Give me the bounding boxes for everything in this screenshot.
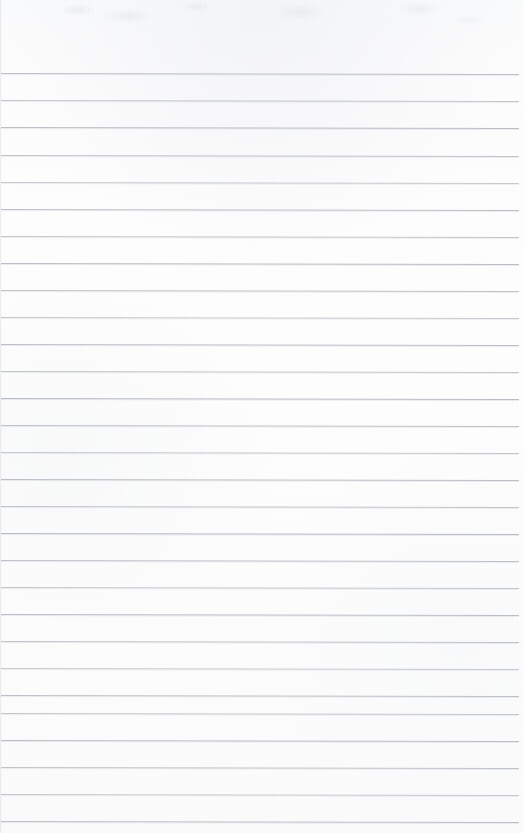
rule-line (1, 533, 519, 535)
rule-line (1, 182, 519, 184)
rule-line (1, 506, 519, 508)
rule-line (1, 371, 519, 373)
rule-line (1, 695, 519, 697)
rule-line (1, 452, 519, 454)
rule-line (1, 794, 519, 796)
rule-line (1, 740, 519, 742)
rule-line (1, 641, 519, 643)
rule-lines-group (0, 0, 524, 833)
rule-line (1, 317, 519, 319)
paper-grain-texture (0, 0, 524, 833)
rule-line (1, 614, 519, 616)
rule-line (1, 263, 519, 265)
rule-line (1, 344, 519, 346)
rule-line (1, 713, 519, 715)
page-left-edge (0, 0, 2, 833)
rule-line (1, 479, 519, 481)
rule-line (1, 425, 519, 427)
rule-line (1, 73, 519, 75)
rule-line (1, 155, 519, 157)
scan-texture-top (0, 0, 524, 78)
rule-line (1, 209, 519, 211)
rule-line (1, 767, 519, 769)
rule-line (1, 587, 519, 589)
rule-line (1, 127, 519, 129)
rule-line (1, 236, 519, 238)
rule-line (1, 290, 519, 292)
rule-line (1, 398, 519, 400)
rule-line (1, 100, 519, 102)
rule-line (1, 821, 519, 823)
rule-line (1, 560, 519, 562)
rule-line (1, 668, 519, 670)
ruled-page (0, 0, 524, 833)
